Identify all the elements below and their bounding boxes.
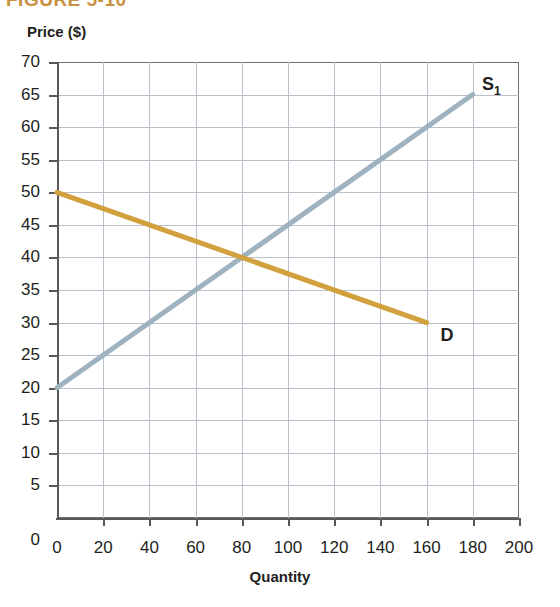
x-axis-tick-label: 20 xyxy=(94,538,113,558)
x-axis-tick-label: 100 xyxy=(274,538,302,558)
x-axis-tick-label: 0 xyxy=(52,538,61,558)
y-axis-tick xyxy=(49,355,57,357)
gridline-vertical xyxy=(196,62,197,518)
gridline-vertical xyxy=(288,62,289,518)
x-axis-tick xyxy=(103,518,105,526)
y-axis-tick xyxy=(49,420,57,422)
y-axis-tick-label: 60 xyxy=(0,117,40,137)
y-axis-tick-label: 0 xyxy=(0,530,40,550)
y-axis-title: Price ($) xyxy=(27,23,86,40)
curve-label-subscript: 1 xyxy=(494,83,501,97)
y-axis-tick-label: 5 xyxy=(0,475,40,495)
x-axis-tick xyxy=(149,518,151,526)
curve-label-d: D xyxy=(440,325,453,346)
x-axis-tick-label: 140 xyxy=(366,538,394,558)
gridline-vertical xyxy=(103,62,104,518)
x-axis-tick-label: 60 xyxy=(186,538,205,558)
x-axis-tick-label: 160 xyxy=(412,538,440,558)
y-axis-tick xyxy=(49,225,57,227)
gridline-vertical xyxy=(380,62,381,518)
gridline-vertical xyxy=(473,62,474,518)
y-axis-tick xyxy=(49,192,57,194)
x-axis-tick-label: 200 xyxy=(505,538,533,558)
y-axis-tick xyxy=(49,453,57,455)
plot-area xyxy=(57,62,519,518)
y-axis-tick-label: 35 xyxy=(0,280,40,300)
y-axis-tick-label: 10 xyxy=(0,443,40,463)
gridline-vertical xyxy=(149,62,150,518)
x-axis-tick xyxy=(519,518,521,526)
x-axis-tick-label: 120 xyxy=(320,538,348,558)
gridline-vertical xyxy=(427,62,428,518)
y-axis-tick-label: 65 xyxy=(0,85,40,105)
x-axis-tick-label: 180 xyxy=(459,538,487,558)
y-axis-tick-label: 15 xyxy=(0,410,40,430)
gridline-vertical xyxy=(334,62,335,518)
x-axis-tick xyxy=(334,518,336,526)
x-axis-tick xyxy=(196,518,198,526)
y-axis-tick-label: 25 xyxy=(0,345,40,365)
y-axis-tick-label: 40 xyxy=(0,247,40,267)
x-axis-tick xyxy=(427,518,429,526)
y-axis-tick-label: 30 xyxy=(0,313,40,333)
x-axis-tick xyxy=(380,518,382,526)
y-axis-tick xyxy=(49,257,57,259)
x-axis-tick-label: 80 xyxy=(232,538,251,558)
y-axis-tick-label: 50 xyxy=(0,182,40,202)
y-axis-tick xyxy=(49,95,57,97)
y-axis-tick xyxy=(49,388,57,390)
gridline-vertical xyxy=(242,62,243,518)
x-axis-tick xyxy=(288,518,290,526)
y-axis-tick xyxy=(49,290,57,292)
y-axis-line xyxy=(57,62,59,519)
curve-label-text: D xyxy=(440,325,453,345)
x-axis-tick xyxy=(242,518,244,526)
curve-label-text: S xyxy=(482,74,494,94)
y-axis-tick-label: 20 xyxy=(0,378,40,398)
curve-label-s: S1 xyxy=(482,74,501,98)
y-axis-tick xyxy=(49,62,57,64)
figure-caption: FIGURE 5-10 xyxy=(6,0,127,11)
y-axis-tick xyxy=(49,127,57,129)
x-axis-tick-label: 40 xyxy=(140,538,159,558)
y-axis-tick-label: 70 xyxy=(0,52,40,72)
y-axis-tick xyxy=(49,323,57,325)
x-axis-tick xyxy=(473,518,475,526)
y-axis-tick xyxy=(49,160,57,162)
y-axis-tick-label: 45 xyxy=(0,215,40,235)
y-axis-tick-label: 55 xyxy=(0,150,40,170)
y-axis-tick xyxy=(49,485,57,487)
x-axis-title: Quantity xyxy=(0,568,560,585)
